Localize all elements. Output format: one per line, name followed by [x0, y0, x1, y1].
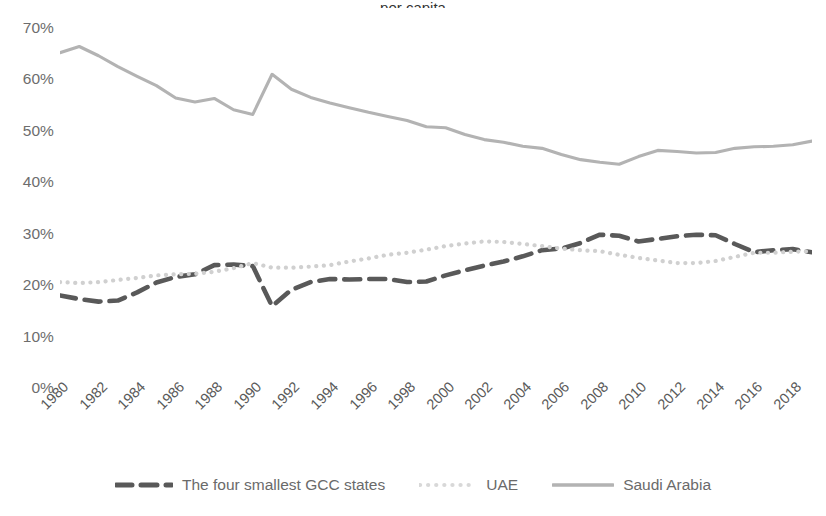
legend-item[interactable]: UAE [419, 476, 518, 494]
line-chart: …per capita… 0%10%20%30%40%50%60%70% 198… [0, 0, 826, 516]
plot-area [60, 28, 812, 388]
y-axis-tick-label: 10% [8, 329, 54, 345]
dotted-line-swatch [419, 479, 477, 491]
y-axis-tick-label: 20% [8, 277, 54, 293]
series-line [60, 47, 812, 165]
x-axis: 1980198219841986198819901992199419961998… [0, 396, 826, 466]
legend-label: Saudi Arabia [623, 476, 711, 494]
legend-label: UAE [486, 476, 518, 494]
y-axis-tick-label: 70% [8, 20, 54, 36]
y-axis: 0%10%20%30%40%50%60%70% [4, 0, 54, 420]
y-axis-tick-label: 50% [8, 123, 54, 139]
solid-line-swatch [552, 479, 614, 491]
y-axis-tick-label: 60% [8, 71, 54, 87]
y-axis-tick-label: 40% [8, 174, 54, 190]
legend-item[interactable]: The four smallest GCC states [115, 476, 385, 494]
legend-item[interactable]: Saudi Arabia [552, 476, 711, 494]
series-line [60, 235, 812, 306]
legend-label: The four smallest GCC states [182, 476, 385, 494]
y-axis-tick-label: 30% [8, 226, 54, 242]
series-canvas [60, 28, 812, 388]
series-line [60, 241, 812, 283]
clipped-chart-title: …per capita… [0, 0, 826, 8]
dashed-line-swatch [115, 479, 173, 491]
chart-legend: The four smallest GCC statesUAESaudi Ara… [0, 468, 826, 502]
